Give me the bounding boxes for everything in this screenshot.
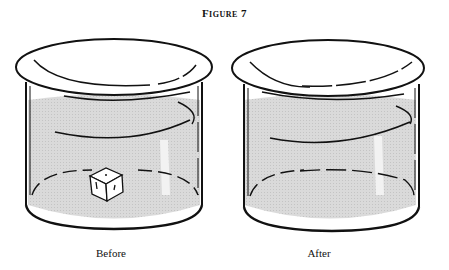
water-before [28,94,200,219]
beakers-diagram [0,0,449,270]
caption-after: After [279,247,359,259]
beaker-after [232,40,424,231]
beaker-before [16,39,212,229]
caption-before: Before [71,247,151,259]
water-after [244,94,416,219]
